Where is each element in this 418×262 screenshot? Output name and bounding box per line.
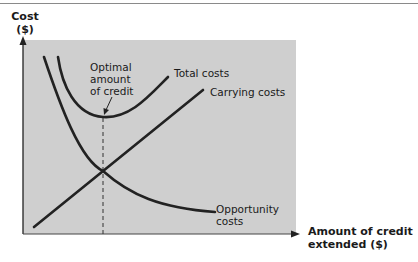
opportunity-label-line1: Opportunity — [216, 203, 279, 215]
optimal-amount-label: Optimal amount of credit — [90, 61, 133, 97]
y-axis-label-line2: ($) — [10, 23, 40, 36]
x-axis-label-line1: Amount of credit — [308, 225, 413, 238]
annotation-arrowhead-icon — [104, 108, 110, 115]
opportunity-costs-label: Opportunity costs — [216, 203, 279, 227]
total-costs-label: Total costs — [174, 67, 229, 79]
opportunity-label-line2: costs — [216, 215, 279, 227]
chart-canvas — [0, 0, 418, 262]
x-axis-label: Amount of credit extended ($) — [308, 225, 413, 251]
carrying-costs-label: Carrying costs — [210, 86, 285, 98]
y-axis-label: Cost ($) — [10, 10, 40, 36]
y-axis-label-line1: Cost — [10, 10, 40, 23]
x-axis-label-line2: extended ($) — [308, 238, 413, 251]
optimal-label-line1: Optimal — [90, 61, 133, 73]
optimal-label-line2: amount — [90, 73, 133, 85]
x-axis-arrow-icon — [291, 231, 300, 238]
y-axis-arrow-icon — [20, 36, 27, 45]
optimal-label-line3: of credit — [90, 85, 133, 97]
annotation-arrow — [106, 97, 112, 110]
